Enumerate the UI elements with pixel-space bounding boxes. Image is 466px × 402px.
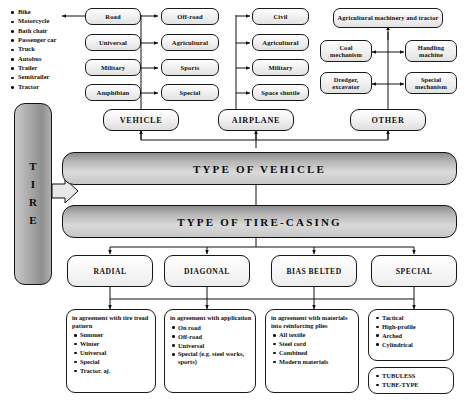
list-item: Trailer (18, 65, 76, 72)
node-label: Agricultural machinery and tractor (338, 14, 439, 21)
detail-box-special-shapes: Tactical High-profile Arched Cylindrical (368, 309, 454, 361)
banner-label: TYPE OF TIRE-CASING (177, 216, 342, 228)
list-item: Off-road (178, 333, 252, 341)
casing-type-label: SPECIAL (396, 267, 432, 276)
list-item: Motorcycle (18, 18, 76, 25)
node-military-airplane[interactable]: Military (252, 59, 309, 76)
node-label: Agricultural (172, 39, 208, 46)
banner-type-of-vehicle: TYPE OF VEHICLE (62, 152, 457, 185)
casing-type-special[interactable]: SPECIAL (371, 255, 457, 287)
detail-heading: in agreement with materials into reinfor… (271, 314, 355, 329)
vehicle-examples-list: Bike Motorcycle Bath chair Passenger car… (8, 9, 76, 93)
node-handling-machine[interactable]: Handling machine (405, 40, 457, 62)
node-off-road[interactable]: Off-road (161, 8, 219, 25)
list-item: Modern materials (279, 358, 355, 366)
detail-heading: in agreement with tire tread pattern (72, 314, 152, 329)
list-item: Winter (80, 340, 152, 348)
tire-letter: E (29, 212, 36, 230)
detail-box-application: in agreement with application On road Of… (164, 309, 256, 393)
node-sports[interactable]: Sports (161, 59, 219, 76)
node-label: Civil (273, 13, 287, 20)
list-item: Semitrailer (18, 74, 76, 81)
tire-letter: R (29, 194, 37, 212)
list-item: TUBE-TYPE (382, 381, 450, 389)
node-space-shuttle[interactable]: Space shuttle (252, 84, 309, 101)
casing-type-label: RADIAL (94, 267, 127, 276)
category-label: AIRPLANE (232, 116, 280, 125)
list-item: All textile (279, 331, 355, 339)
detail-box-reinforcing-plies: in agreement with materials into reinfor… (265, 309, 359, 393)
casing-type-label: BIAS BELTED (286, 267, 341, 276)
list-item: Special (e.g. steel works, sports) (178, 350, 252, 366)
list-item: Truck (18, 46, 76, 53)
list-item: Universal (80, 349, 152, 357)
node-coal-mechanism[interactable]: Coal mechanism (320, 40, 372, 62)
category-label: OTHER (371, 116, 404, 125)
node-label: Universal (99, 39, 127, 46)
category-other[interactable]: OTHER (350, 109, 426, 131)
tire-letter: I (31, 176, 35, 194)
node-military-vehicle[interactable]: Military (85, 59, 141, 76)
banner-label: TYPE OF VEHICLE (193, 163, 326, 175)
node-label: Dredger, excavator (323, 76, 369, 90)
list-item: High-profile (382, 323, 450, 331)
category-airplane[interactable]: AIRPLANE (218, 109, 294, 131)
list-item: Bike (18, 9, 76, 16)
node-label: Space shuttle (261, 89, 299, 96)
list-item: Combined (279, 349, 355, 357)
detail-box-tread-pattern: in agreement with tire tread pattern Sum… (66, 309, 156, 393)
banner-type-of-tire-casing: TYPE OF TIRE-CASING (62, 205, 457, 238)
tire-letter: T (29, 158, 36, 176)
node-amphibian[interactable]: Amphibian (85, 84, 141, 101)
node-agricultural-machinery[interactable]: Agricultural machinery and tractor (333, 8, 443, 28)
node-agricultural-airplane[interactable]: Agricultural (252, 34, 309, 51)
node-agricultural-vehicle[interactable]: Agricultural (161, 34, 219, 51)
list-item: Passenger car (18, 37, 76, 44)
diagram-canvas: Bike Motorcycle Bath chair Passenger car… (0, 0, 466, 402)
node-label: Agricultural (262, 39, 298, 46)
node-label: Handling machine (408, 44, 454, 58)
category-vehicle[interactable]: VEHICLE (103, 109, 179, 131)
list-item: Tractor. aj. (80, 367, 152, 375)
node-special-vehicle[interactable]: Special (161, 84, 219, 101)
node-label: Amphibian (97, 89, 130, 96)
node-label: Coal mechanism (323, 44, 369, 58)
node-label: Military (268, 64, 292, 71)
list-item: Tactical (382, 314, 450, 322)
category-label: VEHICLE (120, 116, 163, 125)
detail-box-tube-construction: TUBULESS TUBE-TYPE (368, 367, 454, 394)
detail-heading: in agreement with application (170, 314, 252, 322)
casing-type-diagonal[interactable]: DIAGONAL (164, 255, 250, 287)
list-item: Special (80, 358, 152, 366)
node-road[interactable]: Road (85, 8, 141, 25)
node-label: Road (105, 13, 120, 20)
node-special-mechanism[interactable]: Special mechanism (405, 72, 457, 94)
list-item: Universal (178, 342, 252, 350)
casing-type-radial[interactable]: RADIAL (67, 255, 153, 287)
list-item: Steel cord (279, 340, 355, 348)
node-label: Military (101, 64, 125, 71)
list-item: Arched (382, 332, 450, 340)
node-label: Special mechanism (408, 76, 454, 90)
list-item: Autobus (18, 56, 76, 63)
node-civil[interactable]: Civil (252, 8, 309, 25)
list-item: TUBULESS (382, 372, 450, 380)
casing-type-label: DIAGONAL (184, 267, 230, 276)
casing-type-bias-belted[interactable]: BIAS BELTED (271, 255, 357, 287)
list-item: Bath chair (18, 28, 76, 35)
list-item: On road (178, 324, 252, 332)
node-label: Off-road (177, 13, 203, 20)
node-universal[interactable]: Universal (85, 34, 141, 51)
root-tire-box[interactable]: T I R E (14, 103, 52, 285)
list-item: Summer (80, 331, 152, 339)
node-dredger-excavator[interactable]: Dredger, excavator (320, 72, 372, 94)
list-item: Tractor (18, 84, 76, 91)
node-label: Sports (181, 64, 200, 71)
node-label: Special (180, 89, 201, 96)
list-item: Cylindrical (382, 341, 450, 349)
